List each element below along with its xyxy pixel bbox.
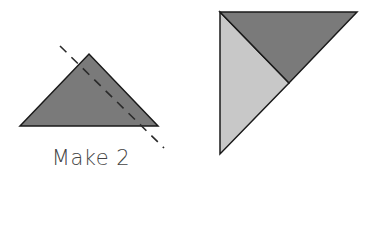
left-triangle — [20, 54, 158, 126]
caption-make-2: Make 2 — [44, 146, 138, 170]
